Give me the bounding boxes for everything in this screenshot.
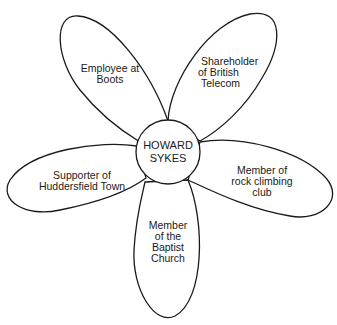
petal-label-bottom: Member of the Baptist Church: [138, 220, 198, 264]
petal-label-top-right: Shareholder of British Telecom: [198, 56, 268, 89]
center-label: HOWARD SYKES: [138, 139, 198, 165]
petal-label-right: Member of rock climbing club: [224, 165, 300, 198]
petal-label-left: Supporter of Huddersfield Town: [32, 170, 132, 192]
petal-label-top-left: Employee at Boots: [70, 63, 150, 85]
